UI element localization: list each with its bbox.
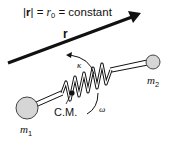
equals-sign: = xyxy=(33,6,46,18)
cm-label: C.M. xyxy=(54,106,77,118)
mass-1-symbol: m xyxy=(20,123,28,135)
rigid-rotor-spring-diagram: |r| = r0 = constant r κ ω C.M. m1 xyxy=(0,0,176,145)
kappa-label: κ xyxy=(77,60,82,70)
rod-right xyxy=(110,60,148,72)
mass-2-label: m2 xyxy=(147,74,159,89)
constraint-equation: |r| = r0 = constant xyxy=(23,6,113,20)
mass-1-subscript: 1 xyxy=(28,129,32,138)
spring-coil-inner xyxy=(62,64,111,100)
rod-left xyxy=(36,91,63,106)
equals-constant: = constant xyxy=(55,6,112,18)
r-vector-label: r xyxy=(63,27,68,41)
mass-2-ball xyxy=(146,55,160,69)
r-vector-arrow xyxy=(8,11,141,63)
omega-rotation-arc xyxy=(87,93,98,114)
mass-1-label: m1 xyxy=(20,123,32,138)
center-of-mass-dot xyxy=(69,90,74,95)
mass-2-symbol: m xyxy=(147,74,155,86)
omega-label: ω xyxy=(99,104,105,114)
mass-2-subscript: 2 xyxy=(155,80,159,89)
mass-1-ball xyxy=(16,97,38,119)
